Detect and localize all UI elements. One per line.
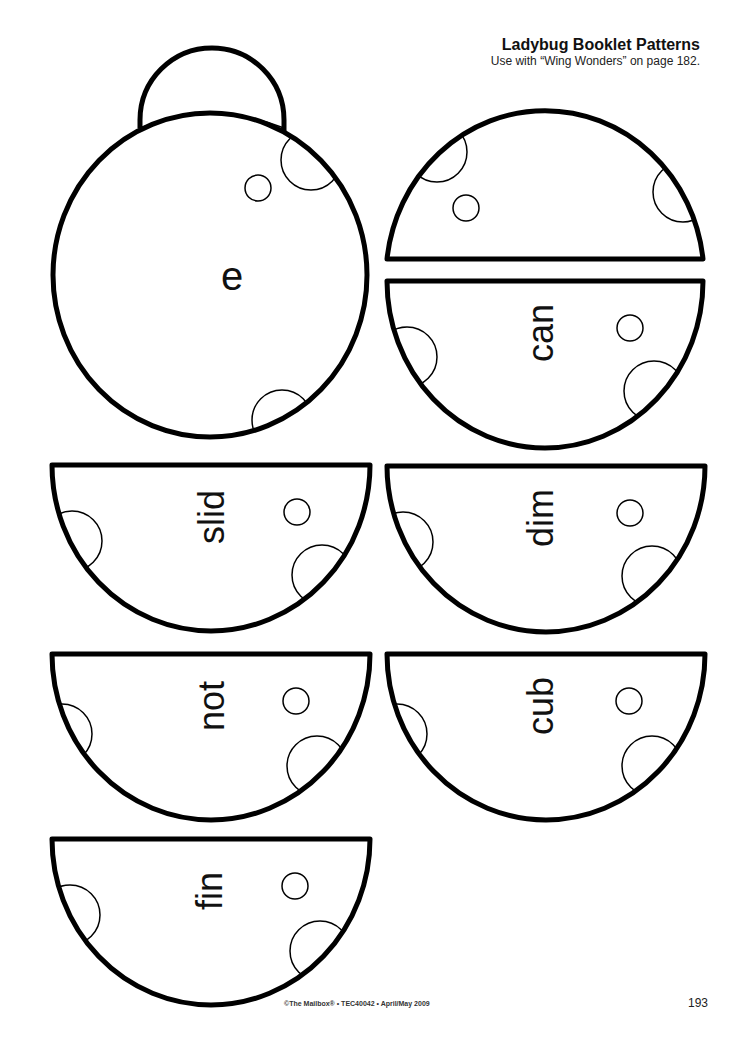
word-piece-not: not — [32, 654, 370, 820]
word-piece-fin: fin — [40, 839, 370, 1005]
piece-word: slid — [191, 490, 232, 544]
piece-word: fin — [189, 872, 230, 910]
copyright-footer: ©The Mailbox® • TEC40042 • April/May 200… — [284, 1000, 430, 1007]
word-piece-slid: slid — [42, 465, 370, 631]
piece-word: can — [520, 304, 561, 362]
page-number: 193 — [688, 996, 708, 1010]
ladybug-body-shape — [53, 113, 367, 437]
word-piece-dim: dim — [373, 466, 705, 632]
wing-cover-pattern — [387, 111, 713, 259]
piece-word: not — [191, 681, 232, 731]
ladybug-body-pattern: e — [53, 48, 367, 450]
pattern-sheet: e can slid — [0, 0, 748, 1040]
piece-word: dim — [520, 489, 561, 547]
body-letter: e — [221, 254, 243, 298]
piece-word: cub — [520, 677, 561, 735]
word-piece-cub: cub — [367, 654, 705, 820]
word-piece-can: can — [377, 281, 703, 448]
